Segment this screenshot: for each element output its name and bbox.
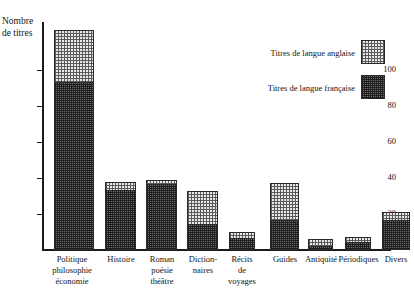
bar-divers — [382, 212, 410, 250]
bar-histoire — [105, 182, 136, 250]
legend-swatch-french — [361, 75, 385, 99]
x-label-line: Histoire — [98, 254, 144, 265]
x-label-histoire: Histoire — [98, 254, 144, 265]
bar-segment-french-antiquite — [309, 246, 332, 250]
legend-label-english: Titres de langue anglaise — [271, 48, 355, 58]
bar-segment-french-politique-philosophie-economie — [55, 82, 93, 250]
y-axis-title: Nombre de titres — [2, 16, 44, 39]
x-label-line: théâtre — [139, 276, 185, 287]
bar-segment-french-roman-poesie-theatre — [147, 184, 176, 250]
bar-periodiques — [345, 237, 371, 250]
bar-dictionnaires — [187, 191, 218, 250]
bar-segment-french-dictionnaires — [188, 224, 217, 250]
x-label-line: de — [219, 265, 265, 276]
x-label-line: Roman — [139, 254, 185, 265]
x-label-line: philosophie — [39, 265, 105, 276]
bar-politique-philosophie-economie — [54, 30, 94, 250]
bar-antiquite — [308, 239, 333, 250]
x-label-line: poésie — [139, 265, 185, 276]
x-label-line: voyages — [219, 276, 265, 287]
bar-segment-french-periodiques — [346, 242, 370, 250]
bar-recits-de-voyages — [229, 232, 255, 250]
x-label-line: économie — [39, 276, 105, 287]
x-label-roman-poesie-theatre: Romanpoésiethéâtre — [139, 254, 185, 287]
bar-guides — [270, 183, 299, 250]
x-label-line: Divers — [373, 254, 414, 265]
x-label-line: Récits — [219, 254, 265, 265]
bar-segment-english-guides — [271, 184, 298, 220]
bar-segment-english-politique-philosophie-economie — [55, 31, 93, 81]
bar-segment-english-dictionnaires — [188, 192, 217, 224]
bar-segment-french-guides — [271, 220, 298, 250]
legend-label-french: Titres de langue française — [268, 83, 355, 93]
y-axis-title-line1: Nombre — [2, 16, 33, 26]
bar-segment-english-histoire — [106, 183, 135, 190]
bar-segment-english-divers — [383, 213, 409, 220]
x-label-divers: Divers — [373, 254, 414, 265]
x-label-line: Politique — [39, 254, 105, 265]
legend-swatch-english — [361, 40, 385, 64]
y-axis-title-line2: de titres — [2, 28, 44, 40]
bar-segment-french-histoire — [106, 190, 135, 250]
bar-roman-poesie-theatre — [146, 180, 177, 250]
bar-segment-french-recits-de-voyages — [230, 238, 254, 250]
legend-item-english: Titres de langue anglaise — [180, 40, 385, 66]
title-remnant: · ·· ·· ·· — [78, 0, 138, 7]
x-label-recits-de-voyages: Récitsdevoyages — [219, 254, 265, 287]
x-label-politique-philosophie-economie: Politiquephilosophieéconomie — [39, 254, 105, 287]
bar-segment-french-divers — [383, 220, 409, 250]
legend-item-french: Titres de langue française — [180, 75, 385, 101]
